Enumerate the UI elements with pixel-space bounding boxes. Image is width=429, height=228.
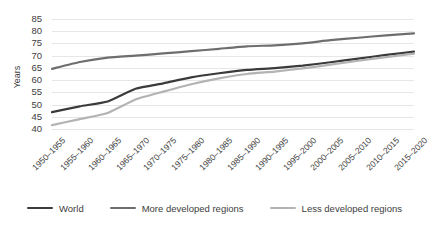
legend-item[interactable]: World: [27, 203, 84, 214]
legend-label: More developed regions: [142, 203, 244, 214]
y-axis-tick: 55: [31, 88, 42, 98]
x-axis-tick-labels: 1950–19551955–19601960–19651965–19701970…: [52, 136, 414, 194]
legend-swatch-icon: [270, 207, 296, 209]
y-axis-tick: 80: [31, 26, 42, 36]
y-axis-tick: 60: [31, 75, 42, 85]
y-axis-tick: 50: [31, 100, 42, 110]
y-axis-tick-labels: 40455055606570758085: [0, 14, 48, 134]
series-line-less-developed-regions: [52, 54, 414, 126]
plot-area: [52, 14, 414, 134]
y-axis-tick: 40: [31, 124, 42, 134]
life-expectancy-line-chart: Years 40455055606570758085 1950–19551955…: [0, 0, 429, 228]
legend-item[interactable]: More developed regions: [110, 203, 244, 214]
legend-label: Less developed regions: [302, 203, 402, 214]
legend-swatch-icon: [110, 207, 136, 209]
y-axis-tick: 65: [31, 63, 42, 73]
legend-swatch-icon: [27, 207, 53, 209]
y-axis-tick: 70: [31, 51, 42, 61]
series-line-more-developed-regions: [52, 33, 414, 69]
chart-legend: WorldMore developed regionsLess develope…: [0, 198, 429, 218]
y-axis-tick: 85: [31, 14, 42, 24]
y-axis-tick: 45: [31, 112, 42, 122]
y-axis-tick: 75: [31, 39, 42, 49]
series-container: [52, 14, 414, 134]
legend-item[interactable]: Less developed regions: [270, 203, 402, 214]
legend-label: World: [59, 203, 84, 214]
